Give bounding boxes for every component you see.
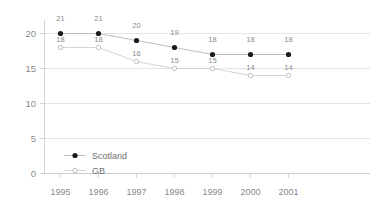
gb-label-2000: 14 [246, 63, 254, 72]
xtick-label-2001: 2001 [278, 187, 298, 197]
gb-point-1998 [172, 66, 176, 70]
scotland-label-2000: 18 [246, 35, 254, 44]
gb-label-1997: 16 [132, 49, 140, 58]
ytick-label-15: 15 [25, 63, 36, 74]
scotland-point-1998 [172, 45, 177, 50]
gb-label-2001: 14 [284, 63, 292, 72]
filled-circle-icon [72, 153, 77, 158]
chart-canvas: 20 15 10 5 0 1995 1996 1997 1998 1999 20… [0, 0, 383, 212]
scotland-point-2000 [248, 52, 253, 57]
scotland-label-1998: 19 [170, 28, 178, 37]
gb-label-1996: 18 [94, 35, 102, 44]
xtick-label-2000: 2000 [240, 187, 260, 197]
line-chart: 20 15 10 5 0 1995 1996 1997 1998 1999 20… [0, 0, 383, 212]
legend-item-scotland[interactable]: Scotland [64, 151, 127, 161]
open-circle-icon [73, 168, 77, 172]
scotland-label-1995: 21 [56, 14, 64, 23]
scotland-label-1996: 21 [94, 14, 102, 23]
gb-point-1995 [58, 45, 62, 49]
gb-point-1996 [96, 45, 100, 49]
ytick-label-5: 5 [31, 133, 36, 144]
legend: Scotland GB [64, 151, 127, 176]
x-axis-labels: 1995 1996 1997 1998 1999 2000 2001 [50, 187, 298, 197]
xtick-label-1997: 1997 [126, 187, 146, 197]
ytick-label-0: 0 [31, 168, 36, 179]
scotland-label-1999: 18 [208, 35, 216, 44]
y-axis-labels: 20 15 10 5 0 [25, 28, 36, 179]
gb-point-2001 [286, 73, 290, 77]
xtick-label-1996: 1996 [88, 187, 108, 197]
legend-item-gb[interactable]: GB [64, 166, 105, 176]
xtick-label-1998: 1998 [164, 187, 184, 197]
y-axis-tickmarks [40, 34, 44, 174]
ytick-label-10: 10 [25, 98, 36, 109]
legend-label-gb: GB [92, 166, 105, 176]
ytick-label-20: 20 [25, 28, 36, 39]
scotland-point-2001 [286, 52, 291, 57]
xtick-label-1999: 1999 [202, 187, 222, 197]
gb-point-2000 [248, 73, 252, 77]
gb-point-1997 [134, 59, 138, 63]
legend-label-scotland: Scotland [92, 151, 127, 161]
gb-label-1999: 15 [208, 56, 216, 65]
xtick-label-1995: 1995 [50, 187, 70, 197]
scotland-value-labels: 21 21 20 19 18 18 18 [56, 14, 292, 44]
gb-label-1998: 15 [170, 56, 178, 65]
gb-label-1995: 18 [56, 35, 64, 44]
gb-point-1999 [210, 66, 214, 70]
scotland-label-2001: 18 [284, 35, 292, 44]
scotland-label-1997: 20 [132, 21, 140, 30]
scotland-point-1997 [134, 38, 139, 43]
